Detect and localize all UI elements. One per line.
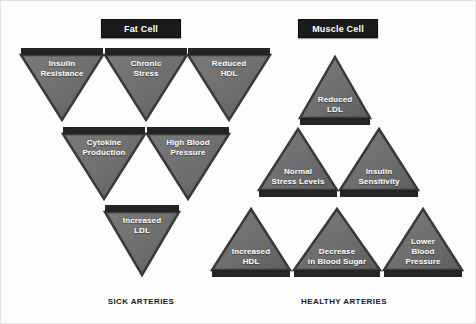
muscle-cell-header: Muscle Cell <box>298 19 378 38</box>
node-triangle: Insulin Resistance <box>21 48 103 120</box>
healthy-arteries-caption: HEALTHY ARTERIES <box>289 297 399 306</box>
node-triangle: High Blood Pressure <box>147 127 229 199</box>
node-triangle: Reduced LDL <box>300 57 370 125</box>
node-triangle: Chronic Stress <box>105 48 187 120</box>
fat-cell-header: Fat Cell <box>101 19 181 38</box>
node-triangle: Normal Stress Levels <box>259 129 337 197</box>
node-triangle: Increased HDL <box>212 209 290 277</box>
node-triangle: Reduced HDL <box>188 48 270 120</box>
node-triangle: Lower Blood Pressure <box>384 209 462 277</box>
node-triangle: Insulin Sensitivity <box>340 129 418 197</box>
node-triangle: Decrease in Blood Sugar <box>294 209 380 277</box>
diagram-canvas: Fat Cell Muscle Cell Insulin ResistanceC… <box>0 0 476 324</box>
node-triangle: Cytokine Production <box>63 127 145 199</box>
sick-arteries-caption: SICK ARTERIES <box>101 297 181 306</box>
node-triangle: Increased LDL <box>105 205 179 275</box>
